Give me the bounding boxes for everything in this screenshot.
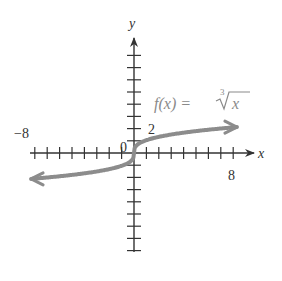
function-label-lhs: f(x) = bbox=[154, 95, 191, 113]
function-label: f(x) = 3 x bbox=[154, 87, 250, 113]
y-tick-label-2: 2 bbox=[148, 122, 155, 137]
axes bbox=[30, 38, 254, 252]
x-min-tick-label: −8 bbox=[14, 126, 29, 141]
cube-root-graph: x y −8 8 0 2 f(x) = 3 x bbox=[0, 0, 282, 281]
origin-label: 0 bbox=[120, 140, 127, 155]
x-max-tick-label: 8 bbox=[228, 168, 235, 183]
radicand: x bbox=[231, 95, 239, 112]
root-index: 3 bbox=[220, 87, 225, 97]
y-axis-label: y bbox=[127, 16, 136, 31]
x-axis-label: x bbox=[257, 146, 265, 161]
